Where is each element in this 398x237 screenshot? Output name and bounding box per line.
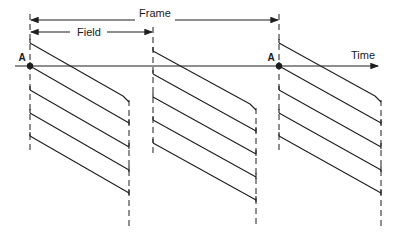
scan-line [153,74,256,131]
scan-line [279,66,381,123]
time-axis: Time [15,49,378,66]
interlaced-scan-diagram: Frame Field Time A A [0,0,398,237]
scan-line [279,136,381,193]
scan-line [30,113,129,170]
scan-line [153,143,256,200]
field-2-scan-lines [153,47,256,202]
field-1-scan-lines [30,39,129,195]
scan-line [153,97,256,154]
point-a-markers: A A [18,52,282,69]
scan-line [30,66,129,123]
scan-line [279,90,381,147]
frame-label: Frame [139,7,171,19]
field-boundaries [30,14,381,228]
scan-line [279,113,381,170]
field-3-scan-lines [279,39,381,195]
scan-line [153,120,256,177]
scan-lines [30,39,381,202]
point-a-left-label: A [18,52,25,63]
scan-line-end-bend [250,104,256,110]
scan-line [30,90,129,147]
scan-line [153,51,250,104]
frame-dimension: Frame [31,7,278,27]
scan-line-end-bend [123,96,129,102]
scan-line-end-bend [375,96,381,102]
scan-line [30,136,129,193]
point-a-right-label: A [267,52,274,63]
scan-line [30,43,123,96]
time-label: Time [351,49,375,61]
field-label: Field [77,26,101,38]
field-dimension: Field [31,26,152,38]
